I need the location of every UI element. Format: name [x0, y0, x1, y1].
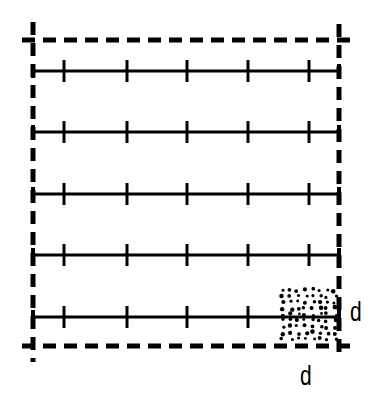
stipple-dot	[318, 289, 321, 292]
stipple-dot	[303, 301, 307, 305]
stipple-dot	[279, 337, 283, 341]
stipple-dot	[333, 332, 337, 336]
stipple-dot	[306, 294, 309, 297]
stipple-dot	[281, 300, 285, 304]
stipple-dot	[318, 336, 322, 340]
stipple-dot	[318, 300, 322, 304]
stipple-dot	[298, 312, 301, 315]
stipple-dot	[297, 294, 300, 297]
stipple-dot	[324, 306, 328, 310]
stipple-dot	[331, 289, 336, 294]
stipple-dot	[303, 323, 307, 327]
stipple-dot	[280, 307, 284, 311]
stipple-dot	[324, 320, 328, 324]
stipple-dot	[333, 326, 337, 330]
stipple-dot	[320, 325, 324, 329]
stipple-zone	[279, 287, 338, 342]
stipple-dot	[326, 288, 329, 291]
stipple-dot	[305, 331, 309, 335]
stipple-dot	[290, 308, 294, 312]
stipple-dot	[289, 300, 292, 303]
stipple-dot	[324, 311, 328, 315]
stipple-dot	[335, 294, 338, 297]
stipple-dot	[311, 325, 315, 329]
stipple-dot	[319, 305, 324, 310]
stipple-dot	[282, 326, 285, 329]
stipple-dot	[288, 288, 292, 292]
stipple-dot	[302, 318, 305, 321]
diagram-canvas	[0, 0, 382, 412]
stipple-dot	[333, 305, 338, 310]
stipple-dot	[311, 294, 314, 297]
stipple-dot	[297, 336, 300, 339]
stipple-dot	[319, 294, 322, 297]
stipple-dot	[303, 287, 307, 291]
stipple-dot	[297, 307, 301, 311]
stipple-dot	[332, 301, 335, 304]
stipple-dot	[313, 300, 317, 304]
stipple-dot	[295, 324, 298, 327]
stipple-dot	[282, 289, 285, 292]
stipple-dot	[325, 338, 328, 341]
stipple-dot	[294, 289, 298, 293]
dimension-label-bottom: d	[300, 362, 312, 390]
stipple-dot	[288, 331, 292, 335]
stipple-dot	[302, 306, 305, 309]
stipple-dot	[287, 294, 291, 298]
stipple-dot	[327, 332, 331, 336]
stipple-dot	[296, 300, 299, 303]
stipple-dot	[311, 287, 315, 291]
stipple-dot	[281, 332, 285, 336]
stipple-dot	[297, 332, 301, 336]
stipple-dot	[288, 323, 292, 327]
stipple-dot	[279, 294, 284, 299]
stipple-dot	[319, 332, 323, 336]
stipple-dot	[304, 337, 307, 340]
stipple-dot	[324, 296, 327, 299]
stipple-dot	[310, 329, 315, 334]
stipple-dot	[324, 326, 328, 330]
stipple-dot	[288, 311, 292, 315]
stipple-dot	[320, 312, 323, 315]
stipple-dot	[317, 319, 321, 323]
stipple-dot	[335, 338, 339, 342]
stipple-dot	[291, 338, 294, 341]
stipple-dot	[313, 338, 316, 341]
tick-lines	[33, 60, 339, 328]
dimension-label-right: d	[350, 298, 362, 326]
stipple-dot	[310, 306, 314, 310]
stipple-dot	[295, 318, 299, 322]
stipple-dot	[326, 300, 329, 303]
